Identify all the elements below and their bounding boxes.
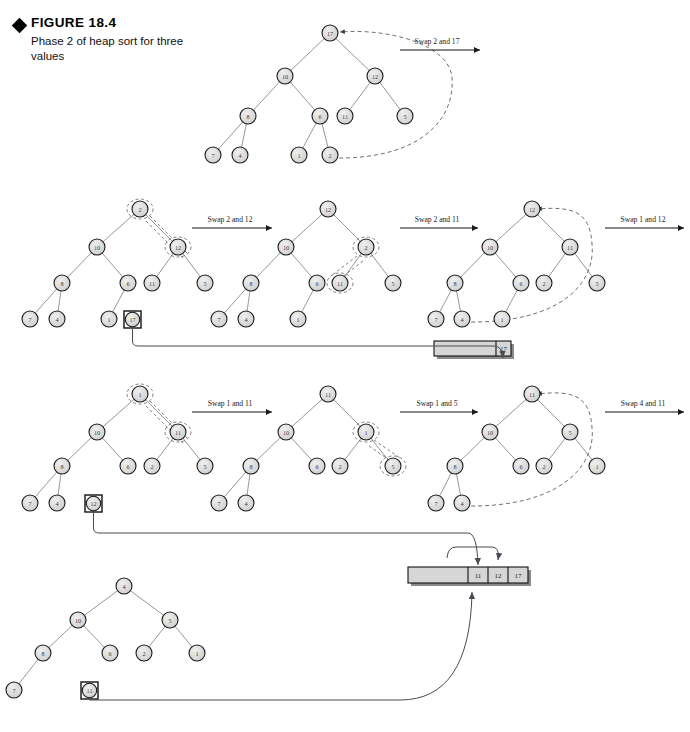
node-label: 5 — [391, 280, 394, 287]
node-label: 8 — [249, 463, 252, 470]
tree-node: 2 — [132, 201, 148, 217]
tree-node: 2 — [136, 645, 152, 661]
tree-node: 2 — [536, 458, 552, 474]
node-label: 6 — [126, 280, 129, 287]
tree-node: 10 — [482, 424, 498, 440]
node-label: 12 — [175, 244, 181, 251]
tree-node: 8 — [54, 458, 70, 474]
tree-node: 7 — [428, 495, 444, 511]
node-label: 1 — [595, 463, 598, 470]
tree-node: 10 — [89, 239, 105, 255]
tree-node: 8 — [447, 275, 463, 291]
tree-node: 4 — [454, 311, 470, 327]
node-label: 12 — [90, 500, 96, 507]
tree-node: 2 — [322, 147, 338, 163]
node-label: 7 — [12, 687, 15, 694]
tree-node: 11 — [337, 108, 353, 124]
tree-step-5: 1 10 11 8 6 2 5 7 4 12 — [22, 386, 213, 512]
node-label: 11 — [342, 113, 348, 120]
tree-node: 4 — [238, 495, 254, 511]
node-label: 8 — [246, 113, 249, 120]
tree-node: 5 — [197, 458, 213, 474]
tree-node: 2 — [358, 239, 374, 255]
array-cell-value: 17 — [500, 345, 508, 353]
tree-node: 5 — [197, 275, 213, 291]
tree-node: 7 — [211, 495, 227, 511]
tree-node: 2 — [536, 275, 552, 291]
array-cell-value: 17 — [515, 572, 523, 580]
node-label: 17 — [129, 316, 135, 323]
node-label: 2 — [542, 463, 545, 470]
tree-node: 8 — [243, 458, 259, 474]
sorted-array-middle: 17 — [434, 341, 514, 359]
node-label: 5 — [391, 463, 394, 470]
figure-root: FIGURE 18.4 Phase 2 of heap sort for thr… — [0, 0, 690, 732]
tree-node: 6 — [513, 458, 529, 474]
tree-node: 6 — [513, 275, 529, 291]
swap-label: Swap 1 and 12 — [621, 215, 666, 224]
tree-step-2: 2 10 12 8 6 11 5 7 4 1 17 — [22, 201, 213, 328]
swap-label: Swap 2 and 17 — [415, 37, 460, 46]
node-label: 10 — [283, 429, 289, 436]
tree-node: 10 — [482, 239, 498, 255]
tree-node: 8 — [447, 458, 463, 474]
tree-node: 7 — [428, 311, 444, 327]
tree-node: 4 — [49, 495, 65, 511]
node-label: 1 — [500, 316, 503, 323]
tree-node: 1 — [290, 311, 306, 327]
node-label: 2 — [142, 650, 145, 657]
tree-node: 7 — [6, 682, 22, 698]
tree-node: 1 — [358, 424, 374, 440]
node-label: 10 — [75, 617, 81, 624]
node-label: 4 — [238, 152, 241, 159]
tree-node: 6 — [120, 275, 136, 291]
tree-node: 4 — [116, 578, 132, 594]
tree-node: 1 — [291, 147, 307, 163]
node-label: 11 — [567, 244, 573, 251]
swap-label: Swap 1 and 11 — [208, 399, 253, 408]
array-cell-value: 11 — [475, 572, 482, 580]
node-label: 4 — [460, 316, 463, 323]
node-label: 10 — [487, 244, 493, 251]
tree-node: 10 — [89, 424, 105, 440]
tree-node: 6 — [309, 458, 325, 474]
tree-node: 12 — [524, 201, 540, 217]
node-label: 6 — [519, 280, 522, 287]
node-label: 4 — [244, 316, 247, 323]
tree-node: 7 — [205, 147, 221, 163]
node-label: 12 — [529, 206, 535, 213]
tree-node: 5 — [162, 612, 178, 628]
node-label: 6 — [126, 463, 129, 470]
tree-node: 6 — [120, 458, 136, 474]
node-label: 2 — [150, 463, 153, 470]
heap-sort-diagram: 17 10 12 8 6 11 5 7 4 1 2 2 10 12 8 6 11… — [0, 0, 690, 732]
node-label: 8 — [453, 463, 456, 470]
node-label: 4 — [244, 500, 247, 507]
node-label: 7 — [217, 316, 220, 323]
tree-node: 11 — [144, 275, 160, 291]
node-label: 8 — [60, 280, 63, 287]
tree-node: 12 — [367, 68, 383, 84]
tree-node: 2 — [332, 458, 348, 474]
node-label: 1 — [296, 316, 299, 323]
tree-node: 10 — [277, 68, 293, 84]
tree-node: 7 — [22, 311, 38, 327]
tree-node: 7 — [211, 311, 227, 327]
node-label: 8 — [249, 280, 252, 287]
node-label: 1 — [107, 316, 110, 323]
node-label: 10 — [94, 429, 100, 436]
tree-node: 8 — [54, 275, 70, 291]
node-label: 2 — [338, 463, 341, 470]
node-label: 2 — [364, 244, 367, 251]
swap-label: Swap 1 and 5 — [416, 399, 457, 408]
node-label: 6 — [315, 463, 318, 470]
swap-label: Swap 2 and 11 — [415, 215, 460, 224]
node-label: 8 — [60, 463, 63, 470]
tree-node: 10 — [278, 424, 294, 440]
node-label: 11 — [337, 280, 343, 287]
node-label: 11 — [529, 391, 535, 398]
node-label: 10 — [282, 73, 288, 80]
node-label: 6 — [315, 280, 318, 287]
node-label: 6 — [318, 113, 321, 120]
node-label: 4 — [122, 583, 125, 590]
